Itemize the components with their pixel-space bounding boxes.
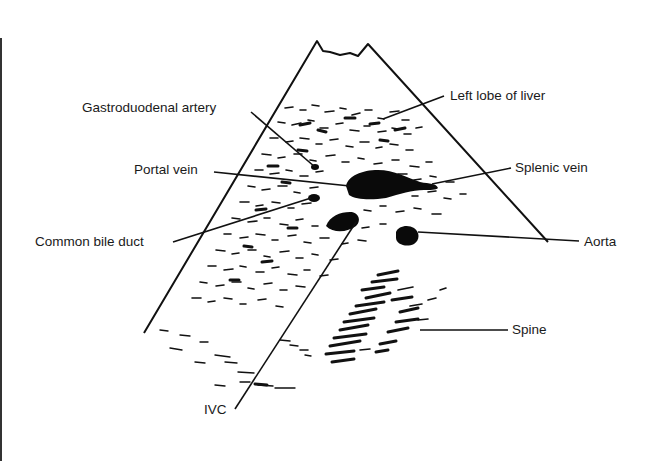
lower-speckle: [160, 330, 311, 388]
liver-speckle: [192, 105, 466, 307]
leader-splenic-vein: [432, 168, 511, 184]
ivc-shape: [326, 212, 359, 231]
label-splenic-vein: Splenic vein: [515, 161, 588, 175]
ultrasound-sector-diagram: [0, 0, 659, 461]
label-spine: Spine: [512, 323, 547, 337]
leader-gastroduodenal: [251, 112, 315, 167]
vessels: [308, 164, 438, 246]
leader-aorta: [418, 232, 579, 241]
label-gastroduodenal-artery: Gastroduodenal artery: [82, 101, 216, 115]
spine-speckle: [280, 271, 446, 362]
label-ivc: IVC: [204, 403, 227, 417]
aorta-shape: [396, 226, 419, 246]
label-aorta: Aorta: [584, 235, 616, 249]
label-left-lobe-of-liver: Left lobe of liver: [450, 89, 545, 103]
label-common-bile-duct: Common bile duct: [35, 235, 144, 249]
leader-left-lobe: [383, 96, 444, 119]
portal-splenic-confluence: [346, 170, 438, 199]
sector-outline: [144, 41, 548, 333]
label-portal-vein: Portal vein: [134, 163, 198, 177]
